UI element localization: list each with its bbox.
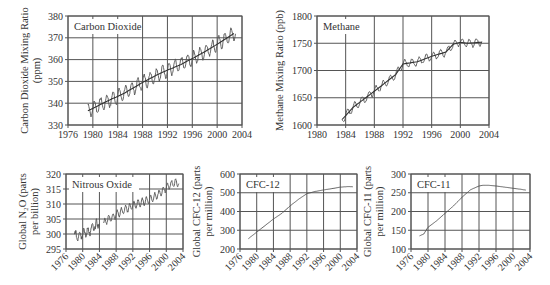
- svg-text:1984: 1984: [336, 129, 356, 140]
- svg-text:305: 305: [46, 214, 61, 225]
- svg-text:2000: 2000: [450, 129, 470, 140]
- svg-text:1996: 1996: [478, 251, 500, 273]
- svg-text:1976: 1976: [58, 129, 78, 140]
- svg-text:1992: 1992: [393, 129, 413, 140]
- x-tick-labels: 19761980198419881992199620002004: [48, 251, 187, 273]
- svg-text:1988: 1988: [364, 129, 384, 140]
- svg-text:1750: 1750: [292, 38, 312, 49]
- chart-title: CFC-12: [246, 179, 280, 190]
- svg-text:200: 200: [220, 244, 235, 255]
- chart-cfc-12: 2003004005006001976198019841988199219962…: [191, 166, 361, 273]
- chart-title: Carbon Dioxide: [74, 21, 142, 32]
- svg-text:315: 315: [46, 184, 61, 195]
- svg-text:200: 200: [391, 206, 406, 217]
- y-axis-label: Global N₂O (partsper billion): [17, 173, 41, 250]
- svg-text:per million): per million): [374, 186, 386, 236]
- chart-title: Methane: [323, 21, 360, 32]
- svg-text:1800: 1800: [292, 11, 312, 22]
- svg-text:400: 400: [220, 206, 235, 217]
- svg-text:Carbon Dioxide Mixing Ratio: Carbon Dioxide Mixing Ratio: [19, 7, 30, 133]
- x-tick-labels: 19761980198419881992199620002004: [393, 251, 534, 273]
- x-tick-labels: 19761980198419881992199620002004: [222, 251, 361, 273]
- y-tick-labels: 16001650170017501800: [292, 11, 312, 131]
- y-tick-labels: 200300400500600: [220, 169, 235, 255]
- chart-nitrous-oxide: 2953003053103153201976198019841988199219…: [17, 169, 187, 273]
- y-tick-labels: 330340350360370380: [48, 11, 63, 131]
- y-axis-label: Carbon Dioxide Mixing Ratio(ppm): [19, 7, 43, 133]
- svg-text:1700: 1700: [292, 65, 312, 76]
- svg-text:Global CFC-11 (parts: Global CFC-11 (parts: [362, 166, 374, 257]
- x-tick-labels: 19761980198419881992199620002004: [58, 129, 252, 140]
- svg-text:2004: 2004: [232, 129, 252, 140]
- svg-text:Methane Mixing Ratio (ppb): Methane Mixing Ratio (ppb): [274, 9, 286, 131]
- svg-text:100: 100: [391, 244, 406, 255]
- svg-text:340: 340: [48, 98, 63, 109]
- svg-text:350: 350: [48, 76, 63, 87]
- svg-text:2004: 2004: [339, 251, 361, 273]
- greenhouse-gas-figure: 3303403503603703801976198019841988199219…: [0, 0, 550, 285]
- svg-text:310: 310: [46, 199, 61, 210]
- svg-text:per billion): per billion): [29, 188, 41, 235]
- svg-text:1992: 1992: [157, 129, 177, 140]
- svg-text:1980: 1980: [307, 129, 327, 140]
- y-tick-labels: 100150200250300: [391, 169, 406, 255]
- svg-text:1992: 1992: [461, 251, 483, 273]
- svg-text:250: 250: [391, 187, 406, 198]
- svg-text:Global CFC-12 (parts: Global CFC-12 (parts: [191, 166, 203, 258]
- svg-text:300: 300: [46, 229, 61, 240]
- svg-text:2000: 2000: [495, 251, 517, 273]
- chart-methane: 1600165017001750180019801984198819921996…: [274, 9, 499, 140]
- svg-text:1988: 1988: [444, 251, 466, 273]
- y-axis-label: Global CFC-11 (partsper million): [362, 166, 386, 257]
- y-axis-label: Global CFC-12 (partsper million): [191, 166, 215, 258]
- svg-text:2000: 2000: [207, 129, 227, 140]
- svg-text:1996: 1996: [182, 129, 202, 140]
- svg-text:370: 370: [48, 32, 63, 43]
- y-axis-label: Methane Mixing Ratio (ppb): [274, 9, 286, 131]
- svg-text:1988: 1988: [133, 129, 153, 140]
- svg-text:295: 295: [46, 244, 61, 255]
- svg-text:300: 300: [220, 225, 235, 236]
- svg-text:500: 500: [220, 187, 235, 198]
- x-tick-labels: 1980198419881992199620002004: [307, 129, 499, 140]
- svg-text:Global N₂O (parts: Global N₂O (parts: [17, 173, 29, 250]
- svg-text:600: 600: [220, 169, 235, 180]
- svg-text:360: 360: [48, 54, 63, 65]
- chart-title: Nitrous Oxide: [72, 179, 132, 190]
- svg-text:per million): per million): [203, 186, 215, 236]
- svg-text:1996: 1996: [422, 129, 442, 140]
- chart-title: CFC-11: [417, 179, 450, 190]
- svg-text:1984: 1984: [108, 129, 128, 140]
- svg-text:1984: 1984: [427, 251, 449, 273]
- svg-text:150: 150: [391, 225, 406, 236]
- svg-text:1650: 1650: [292, 92, 312, 103]
- y-tick-labels: 295300305310315320: [46, 169, 61, 255]
- chart-cfc-11: 1001502002503001976198019841988199219962…: [362, 166, 534, 273]
- figure-canvas: 3303403503603703801976198019841988199219…: [0, 0, 550, 285]
- svg-text:1980: 1980: [410, 251, 432, 273]
- svg-text:380: 380: [48, 11, 63, 22]
- svg-text:2004: 2004: [165, 251, 187, 273]
- svg-text:2004: 2004: [479, 129, 499, 140]
- svg-text:2004: 2004: [512, 251, 534, 273]
- svg-text:320: 320: [46, 169, 61, 180]
- svg-text:1980: 1980: [83, 129, 103, 140]
- chart-co2: 3303403503603703801976198019841988199219…: [19, 7, 252, 140]
- svg-text:(ppm): (ppm): [31, 57, 43, 83]
- svg-text:300: 300: [391, 169, 406, 180]
